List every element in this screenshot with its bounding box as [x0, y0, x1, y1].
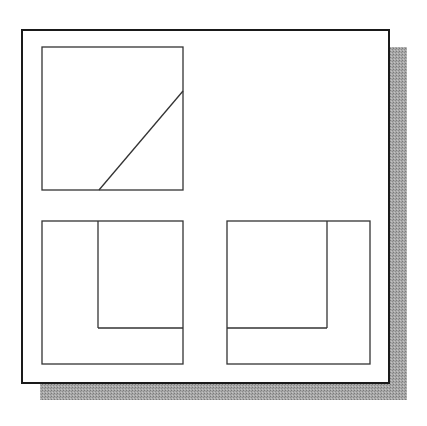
drawing-frame — [22, 30, 389, 383]
diagram-canvas — [0, 0, 427, 426]
